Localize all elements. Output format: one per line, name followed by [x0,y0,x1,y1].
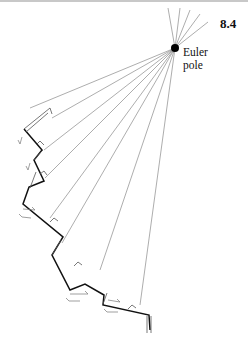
plate-boundary-diagram [0,0,248,339]
small-circle-rays [30,48,175,305]
euler-pole-marker [171,44,179,52]
ridge-transform-boundary [23,108,151,333]
rays-beyond-pole [168,8,208,48]
slip-arrows [18,137,120,312]
